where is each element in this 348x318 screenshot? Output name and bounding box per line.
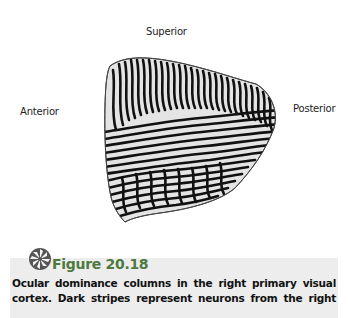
caption-line: cortex. Dark stripes represent neurons f… [12,291,336,306]
figure-pinwheel-icon [28,247,52,271]
figure-caption: Ocular dominance columns in the right pr… [12,276,336,306]
ocular-dominance-columns-illustration [0,0,348,250]
figure-title: Figure 20.18 [52,256,148,272]
superior-label: Superior [146,26,187,37]
caption-line: Ocular dominance columns in the right pr… [12,276,336,291]
anterior-label: Anterior [20,106,59,117]
posterior-label: Posterior [293,103,335,114]
